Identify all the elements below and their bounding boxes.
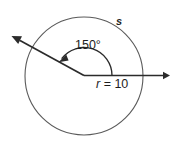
circle-diagram-canvas	[0, 0, 173, 147]
radius-value: 10	[114, 77, 128, 91]
radius-label: r = 10	[96, 78, 128, 91]
diagram-background	[0, 0, 173, 147]
arc-length-label-s: s	[116, 16, 122, 27]
circle-diagram-figure: s 150° r = 10	[0, 0, 173, 147]
central-angle-label: 150°	[75, 39, 101, 52]
radius-equals-sign: =	[100, 77, 114, 91]
